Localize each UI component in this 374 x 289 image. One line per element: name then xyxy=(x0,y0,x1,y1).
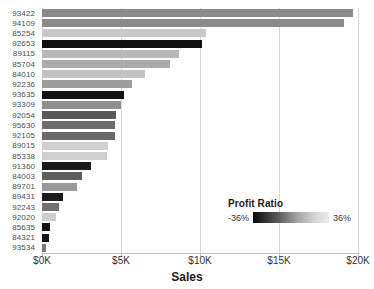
legend-title: Profit Ratio xyxy=(228,198,368,209)
y-label-84321: 84321 xyxy=(12,233,35,242)
bar-row[interactable] xyxy=(42,79,358,89)
bar-93534[interactable] xyxy=(42,244,46,252)
y-label-89115: 89115 xyxy=(13,49,35,58)
legend-colorbar: -36% 36% xyxy=(228,212,368,223)
x-tick-label: $0K xyxy=(33,255,51,266)
y-label-92054: 92054 xyxy=(12,111,35,120)
bar-93422[interactable] xyxy=(42,9,353,17)
bar-92243[interactable] xyxy=(42,203,59,211)
bar-row[interactable] xyxy=(42,161,358,171)
y-label-85635: 85635 xyxy=(12,223,35,232)
bar-row[interactable] xyxy=(42,120,358,130)
bar-row[interactable] xyxy=(42,171,358,181)
y-label-93422: 93422 xyxy=(12,9,35,18)
x-axis-title: Sales xyxy=(0,270,374,284)
bar-94109[interactable] xyxy=(42,19,344,27)
x-tick-label: $20K xyxy=(346,255,369,266)
profit-ratio-legend: Profit Ratio -36% 36% xyxy=(228,198,368,223)
y-label-84003: 84003 xyxy=(12,172,35,181)
bar-93635[interactable] xyxy=(42,91,124,99)
bar-84010[interactable] xyxy=(42,70,145,78)
y-label-92020: 92020 xyxy=(12,213,35,222)
bar-row[interactable] xyxy=(42,110,358,120)
y-label-89015: 89015 xyxy=(12,141,35,150)
bar-row[interactable] xyxy=(42,151,358,161)
x-tick-label: $5K xyxy=(112,255,130,266)
bar-91360[interactable] xyxy=(42,162,91,170)
bar-row[interactable] xyxy=(42,49,358,59)
bar-row[interactable] xyxy=(42,59,358,69)
bar-92054[interactable] xyxy=(42,111,116,119)
bar-row[interactable] xyxy=(42,18,358,28)
bar-89701[interactable] xyxy=(42,183,77,191)
bar-92236[interactable] xyxy=(42,80,132,88)
bar-row[interactable] xyxy=(42,39,358,49)
y-label-85704: 85704 xyxy=(12,60,35,69)
y-label-92243: 92243 xyxy=(12,203,35,212)
bar-row[interactable] xyxy=(42,8,358,18)
bar-89431[interactable] xyxy=(42,193,63,201)
bar-row[interactable] xyxy=(42,90,358,100)
y-label-95630: 95630 xyxy=(12,121,35,130)
y-label-94109: 94109 xyxy=(12,19,35,28)
bar-84321[interactable] xyxy=(42,234,49,242)
bar-row[interactable] xyxy=(42,243,358,253)
legend-min-label: -36% xyxy=(228,213,249,223)
y-label-93309: 93309 xyxy=(12,100,35,109)
bar-89015[interactable] xyxy=(42,142,108,150)
x-tick-label: $15K xyxy=(267,255,290,266)
y-label-89701: 89701 xyxy=(12,182,35,191)
bar-92653[interactable] xyxy=(42,40,202,48)
bar-85338[interactable] xyxy=(42,152,107,160)
bar-row[interactable] xyxy=(42,131,358,141)
bar-92105[interactable] xyxy=(42,132,115,140)
bar-89115[interactable] xyxy=(42,50,179,58)
bar-row[interactable] xyxy=(42,222,358,232)
y-label-85338: 85338 xyxy=(12,152,35,161)
y-label-92653: 92653 xyxy=(12,39,35,48)
y-label-89431: 89431 xyxy=(12,192,35,201)
legend-gradient-swatch xyxy=(253,212,329,223)
bar-85635[interactable] xyxy=(42,223,50,231)
bar-92020[interactable] xyxy=(42,213,56,221)
y-label-85254: 85254 xyxy=(12,29,35,38)
bar-84003[interactable] xyxy=(42,172,82,180)
bar-row[interactable] xyxy=(42,28,358,38)
bar-85254[interactable] xyxy=(42,29,206,37)
y-label-84010: 84010 xyxy=(12,70,35,79)
bar-row[interactable] xyxy=(42,233,358,243)
y-label-91360: 91360 xyxy=(12,162,35,171)
legend-max-label: 36% xyxy=(333,213,351,223)
bar-row[interactable] xyxy=(42,100,358,110)
y-label-92236: 92236 xyxy=(12,80,35,89)
bar-95630[interactable] xyxy=(42,121,115,129)
y-label-92105: 92105 xyxy=(12,131,35,140)
x-tick-label: $10K xyxy=(188,255,211,266)
x-axis-tick-labels: $0K$5K$10K$15K$20K xyxy=(0,255,374,271)
bar-93309[interactable] xyxy=(42,101,121,109)
bar-row[interactable] xyxy=(42,182,358,192)
y-axis-category-labels: 9342294109852549265389115857048401092236… xyxy=(0,8,38,253)
bar-85704[interactable] xyxy=(42,60,170,68)
sales-by-postal-code-bar-chart: 9342294109852549265389115857048401092236… xyxy=(0,0,374,289)
bar-row[interactable] xyxy=(42,141,358,151)
y-label-93534: 93534 xyxy=(12,243,35,252)
bar-row[interactable] xyxy=(42,69,358,79)
y-label-93635: 93635 xyxy=(12,90,35,99)
